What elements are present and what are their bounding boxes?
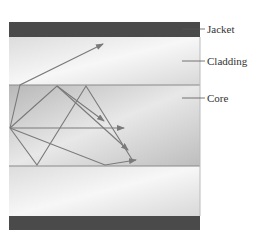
cladding-top: [9, 37, 200, 85]
cladding-bottom: [9, 166, 200, 216]
jacket-label: Jacket: [207, 23, 234, 35]
core-label: Core: [207, 92, 228, 104]
jacket-bottom: [9, 216, 200, 230]
cladding-label: Cladding: [207, 55, 247, 67]
core: [9, 85, 200, 166]
jacket-top: [9, 22, 200, 37]
